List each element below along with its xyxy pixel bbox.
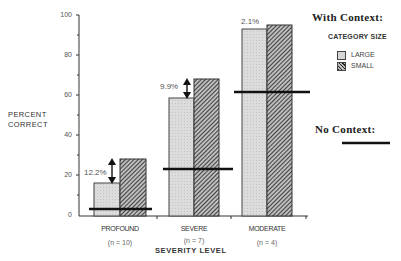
bar-moderate-large bbox=[242, 29, 267, 216]
double-arrow-icon bbox=[183, 78, 191, 99]
legend-swatch-large bbox=[337, 51, 346, 60]
category-label-severe: SEVERE bbox=[154, 225, 234, 232]
n-label-severe: (n = 7) bbox=[154, 237, 234, 244]
ytick-0: 0 bbox=[52, 211, 72, 218]
legend-label-small: SMALL bbox=[351, 62, 374, 69]
category-label-profound: PROFOUND bbox=[80, 225, 160, 232]
legend-swatch-small bbox=[337, 62, 346, 71]
annotation-profound: 12.2% bbox=[84, 168, 107, 177]
bar-group-severe bbox=[163, 78, 233, 216]
n-label-profound: (n = 10) bbox=[80, 239, 160, 246]
legend-with-context-title: With Context: bbox=[312, 11, 383, 23]
ytick-60: 60 bbox=[52, 91, 72, 98]
ytick-20: 20 bbox=[52, 171, 72, 178]
y-axis bbox=[76, 15, 79, 216]
ytick-100: 100 bbox=[52, 11, 72, 18]
bar-group-profound bbox=[89, 158, 152, 216]
bar-moderate-small bbox=[267, 25, 292, 216]
bar-profound-small bbox=[120, 159, 146, 216]
y-axis-label-line2: CORRECT bbox=[8, 120, 48, 130]
category-label-moderate: MODERATE bbox=[227, 225, 307, 232]
ytick-40: 40 bbox=[52, 131, 72, 138]
bar-severe-large bbox=[169, 98, 194, 216]
bar-group-moderate bbox=[234, 25, 310, 216]
double-arrow-icon bbox=[108, 158, 116, 184]
annotation-moderate: 2.1% bbox=[241, 17, 259, 26]
annotation-severe: 9.9% bbox=[160, 82, 178, 91]
n-label-moderate: (n = 4) bbox=[227, 239, 307, 246]
legend-category-size-title: CATEGORY SIZE bbox=[328, 33, 387, 40]
ytick-80: 80 bbox=[52, 51, 72, 58]
x-axis-label: SEVERITY LEVEL bbox=[155, 246, 227, 255]
legend-label-large: LARGE bbox=[351, 51, 375, 58]
legend-no-context-title: No Context: bbox=[315, 123, 375, 135]
y-axis-label: PERCENT CORRECT bbox=[8, 110, 48, 130]
bar-severe-small bbox=[194, 79, 219, 216]
y-axis-label-line1: PERCENT bbox=[8, 110, 48, 120]
bar-profound-large bbox=[94, 183, 120, 216]
